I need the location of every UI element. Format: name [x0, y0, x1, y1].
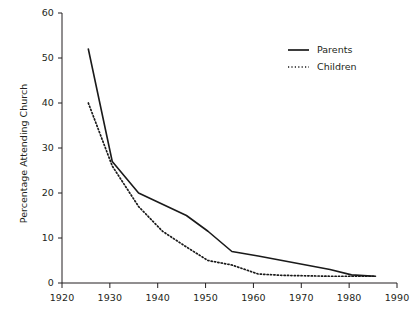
x-tick-label: 1990	[375, 292, 412, 303]
x-tick-label: 1920	[40, 292, 84, 303]
y-tick-label: 30	[22, 142, 54, 153]
y-tick-label: 20	[22, 187, 54, 198]
y-axis-ticks	[58, 13, 62, 283]
legend-label-children: Children	[317, 61, 357, 72]
x-tick-label: 1980	[327, 292, 371, 303]
series-line-children	[88, 103, 375, 276]
y-tick-label: 50	[22, 52, 54, 63]
y-tick-label: 0	[22, 277, 54, 288]
series-line-parents	[88, 49, 375, 276]
y-tick-label: 10	[22, 232, 54, 243]
chart-figure: Percentage Attending Church 010203040506…	[0, 0, 412, 315]
x-tick-label: 1950	[184, 292, 228, 303]
y-tick-label: 60	[22, 7, 54, 18]
legend-label-parents: Parents	[317, 44, 352, 55]
x-tick-label: 1940	[136, 292, 180, 303]
x-axis-ticks	[62, 283, 397, 288]
x-tick-label: 1960	[231, 292, 275, 303]
y-axis-title: Percentage Attending Church	[18, 59, 29, 249]
x-tick-label: 1930	[88, 292, 132, 303]
x-tick-label: 1970	[279, 292, 323, 303]
y-tick-label: 40	[22, 97, 54, 108]
